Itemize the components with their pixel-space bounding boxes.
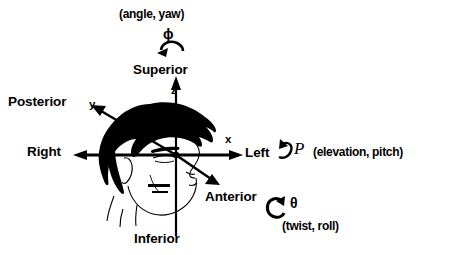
axis-label-inferior: Inferior	[134, 232, 180, 246]
origin-point	[173, 152, 179, 158]
chin-jaw-line	[153, 178, 196, 215]
roll-symbol: θ	[290, 196, 298, 210]
mouth-mark	[148, 184, 170, 187]
eye-lower-line	[155, 161, 174, 163]
axis-label-anterior: Anterior	[205, 190, 257, 204]
cheek-line	[150, 175, 159, 192]
axis-tick-z: z	[171, 85, 177, 97]
anterior-axis-line	[176, 155, 214, 181]
axis-label-left: Left	[245, 146, 269, 160]
pitch-caption: (elevation, pitch)	[313, 146, 403, 158]
face-outline	[190, 144, 200, 178]
axis-tick-y: y	[89, 99, 95, 111]
x-axis-arrowhead-left	[73, 150, 87, 160]
yaw-caption: (angle, yaw)	[119, 8, 184, 20]
neck-line-left	[107, 196, 114, 221]
neck-line-center	[120, 209, 123, 227]
head-coordinate-diagram: (angle, yaw) ϕ Superior z Posterior y Ri…	[0, 0, 451, 255]
mouth-mark-lower	[152, 191, 168, 193]
diagram-canvas	[0, 0, 451, 255]
yaw-arc	[161, 42, 183, 51]
yaw-symbol: ϕ	[163, 27, 174, 41]
neck-line-right	[136, 205, 137, 226]
x-axis-arrowhead-right	[229, 150, 243, 160]
jaw-lower-line	[128, 186, 153, 214]
axis-label-right: Right	[27, 145, 61, 159]
ear-outline	[122, 158, 132, 184]
pitch-curved-arrow-icon	[279, 139, 291, 158]
axis-label-posterior: Posterior	[8, 95, 66, 109]
pitch-symbol: P	[294, 140, 304, 157]
axis-label-superior: Superior	[133, 63, 188, 77]
axis-tick-x: x	[225, 134, 231, 146]
yaw-arrowhead	[157, 48, 168, 57]
roll-circular-arrow-icon	[267, 196, 285, 217]
roll-caption: (twist, roll)	[282, 220, 339, 232]
yaw-curved-arrow-icon	[157, 42, 183, 57]
sideburn-shape	[106, 146, 124, 194]
